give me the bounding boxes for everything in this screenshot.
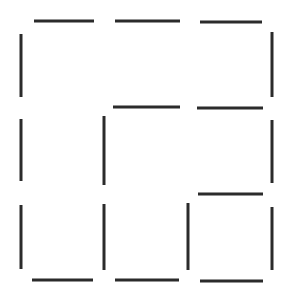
matchstick-diagram: [0, 0, 293, 303]
matchstick-grid-canvas: [0, 0, 293, 303]
